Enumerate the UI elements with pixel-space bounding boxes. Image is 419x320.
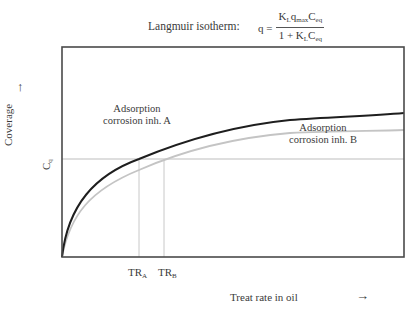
curve-b-label: Adsorption corrosion inh. B: [289, 122, 357, 146]
curve-inhibitor-b: [62, 130, 404, 257]
plot-frame: [62, 47, 404, 257]
x-axis-arrow-icon: →: [356, 288, 369, 304]
plot-area: [0, 0, 419, 320]
curve-a-label: Adsorption corrosion inh. A: [103, 103, 171, 127]
trb-marker-label: TRB: [158, 266, 177, 280]
tra-marker-label: TRA: [128, 266, 147, 280]
cq-marker-label: Cq: [40, 159, 54, 170]
y-axis-label: Coverage: [2, 104, 14, 146]
curve-b-label-line1: Adsorption: [289, 122, 357, 134]
y-axis-arrow-icon: ↑: [17, 79, 24, 95]
curve-a-label-line1: Adsorption: [103, 103, 171, 115]
x-axis-label: Treat rate in oil: [230, 291, 298, 303]
curve-b-label-line2: corrosion inh. B: [289, 134, 357, 146]
curve-a-label-line2: corrosion inh. A: [103, 115, 171, 127]
